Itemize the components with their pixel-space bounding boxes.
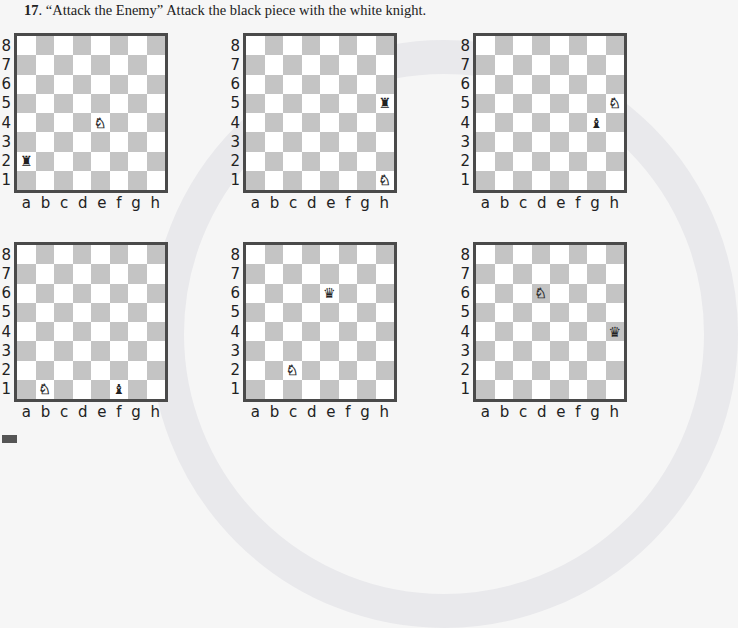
- square-e6[interactable]: [91, 75, 110, 94]
- square-b1[interactable]: [36, 171, 55, 190]
- square-c5[interactable]: [513, 303, 532, 322]
- square-f1[interactable]: [110, 171, 129, 190]
- square-c4[interactable]: [283, 322, 302, 341]
- square-d7[interactable]: [73, 264, 92, 283]
- square-f1[interactable]: [569, 171, 588, 190]
- square-d3[interactable]: [302, 341, 321, 360]
- square-e8[interactable]: [91, 36, 110, 55]
- square-d2[interactable]: [532, 361, 551, 380]
- square-c4[interactable]: [54, 322, 73, 341]
- square-c2[interactable]: [54, 152, 73, 171]
- black-queen-icon[interactable]: ♛: [608, 325, 621, 339]
- square-b7[interactable]: [265, 264, 284, 283]
- square-h7[interactable]: [147, 264, 166, 283]
- square-h2[interactable]: [147, 361, 166, 380]
- square-a8[interactable]: [476, 36, 495, 55]
- square-h5[interactable]: [376, 303, 395, 322]
- square-b6[interactable]: [495, 75, 514, 94]
- square-g1[interactable]: [587, 380, 606, 399]
- square-h2[interactable]: [606, 361, 625, 380]
- square-d1[interactable]: [302, 380, 321, 399]
- square-f4[interactable]: [110, 322, 129, 341]
- square-f1[interactable]: [339, 380, 358, 399]
- square-c8[interactable]: [283, 36, 302, 55]
- square-e4[interactable]: [320, 113, 339, 132]
- square-e4[interactable]: [550, 113, 569, 132]
- square-e4[interactable]: ♘: [91, 113, 110, 132]
- square-d5[interactable]: [532, 94, 551, 113]
- square-e8[interactable]: [91, 245, 110, 264]
- square-c3[interactable]: [513, 341, 532, 360]
- square-g7[interactable]: [128, 55, 147, 74]
- square-a3[interactable]: [246, 341, 265, 360]
- square-g3[interactable]: [587, 341, 606, 360]
- square-b7[interactable]: [495, 264, 514, 283]
- square-a7[interactable]: [246, 264, 265, 283]
- square-e1[interactable]: [550, 171, 569, 190]
- square-e1[interactable]: [91, 171, 110, 190]
- square-c6[interactable]: [54, 75, 73, 94]
- square-a7[interactable]: [17, 55, 36, 74]
- square-e5[interactable]: [320, 303, 339, 322]
- square-c1[interactable]: [513, 380, 532, 399]
- square-e3[interactable]: [550, 132, 569, 151]
- square-h1[interactable]: [147, 380, 166, 399]
- square-d7[interactable]: [532, 264, 551, 283]
- square-a6[interactable]: [246, 75, 265, 94]
- square-d6[interactable]: [302, 75, 321, 94]
- square-c1[interactable]: [513, 171, 532, 190]
- square-h7[interactable]: [376, 264, 395, 283]
- square-a4[interactable]: [246, 322, 265, 341]
- square-c5[interactable]: [283, 303, 302, 322]
- square-h6[interactable]: [376, 284, 395, 303]
- square-g1[interactable]: [128, 171, 147, 190]
- black-bishop-icon[interactable]: ♝: [590, 116, 603, 130]
- square-c4[interactable]: [54, 113, 73, 132]
- square-d3[interactable]: [532, 132, 551, 151]
- square-a7[interactable]: [17, 264, 36, 283]
- square-d2[interactable]: [532, 152, 551, 171]
- square-a1[interactable]: [17, 380, 36, 399]
- square-h5[interactable]: ♘: [606, 94, 625, 113]
- square-e1[interactable]: [550, 380, 569, 399]
- square-a6[interactable]: [476, 284, 495, 303]
- square-e6[interactable]: [550, 284, 569, 303]
- square-c8[interactable]: [513, 36, 532, 55]
- square-d8[interactable]: [73, 245, 92, 264]
- white-knight-icon[interactable]: ♘: [286, 363, 299, 377]
- square-d5[interactable]: [532, 303, 551, 322]
- square-e8[interactable]: [320, 245, 339, 264]
- square-h8[interactable]: [376, 245, 395, 264]
- square-d4[interactable]: [73, 113, 92, 132]
- square-d5[interactable]: [73, 94, 92, 113]
- square-e3[interactable]: [320, 341, 339, 360]
- square-b8[interactable]: [265, 245, 284, 264]
- square-g6[interactable]: [128, 284, 147, 303]
- square-d2[interactable]: [73, 361, 92, 380]
- square-e6[interactable]: [550, 75, 569, 94]
- square-h1[interactable]: [147, 171, 166, 190]
- square-d7[interactable]: [302, 264, 321, 283]
- square-a5[interactable]: [246, 303, 265, 322]
- square-g4[interactable]: [128, 322, 147, 341]
- square-a5[interactable]: [17, 94, 36, 113]
- square-f2[interactable]: [339, 361, 358, 380]
- square-g8[interactable]: [357, 245, 376, 264]
- black-rook-icon[interactable]: ♜: [378, 96, 391, 110]
- square-e7[interactable]: [91, 55, 110, 74]
- square-g7[interactable]: [357, 264, 376, 283]
- square-e3[interactable]: [320, 132, 339, 151]
- square-f8[interactable]: [339, 36, 358, 55]
- square-c8[interactable]: [513, 245, 532, 264]
- black-bishop-icon[interactable]: ♝: [112, 382, 125, 396]
- square-e3[interactable]: [91, 341, 110, 360]
- square-d7[interactable]: [73, 55, 92, 74]
- square-h5[interactable]: ♜: [376, 94, 395, 113]
- square-e6[interactable]: [91, 284, 110, 303]
- square-b5[interactable]: [265, 303, 284, 322]
- square-g5[interactable]: [587, 303, 606, 322]
- square-a1[interactable]: [476, 171, 495, 190]
- square-a6[interactable]: [17, 75, 36, 94]
- square-g3[interactable]: [357, 132, 376, 151]
- square-f3[interactable]: [569, 132, 588, 151]
